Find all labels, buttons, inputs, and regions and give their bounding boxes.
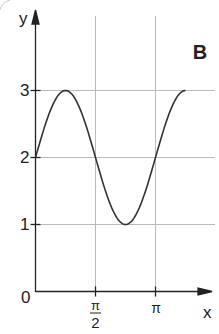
x-tick-label-pi-over-2: π 2	[90, 298, 101, 331]
grid	[36, 16, 216, 292]
y-tick-label-1: 1	[20, 215, 29, 234]
tick-marks	[31, 91, 156, 297]
y-axis-arrow-icon	[32, 10, 39, 24]
x-axis-label: x	[203, 303, 212, 322]
x-axis-arrow-icon	[198, 288, 212, 295]
panel-label: B	[193, 41, 207, 63]
y-tick-label-2: 2	[20, 148, 29, 167]
y-axis-label: y	[19, 9, 28, 28]
svg-text:π: π	[91, 298, 100, 313]
svg-text:2: 2	[91, 314, 99, 331]
x-tick-label-pi: π	[151, 300, 161, 316]
y-tick-label-3: 3	[20, 81, 29, 100]
corner-arc	[0, 0, 10, 10]
origin-label: 0	[21, 288, 30, 307]
function-plot: y x 0 3 2 1 π 2 π B	[0, 0, 219, 334]
axes	[32, 10, 212, 295]
